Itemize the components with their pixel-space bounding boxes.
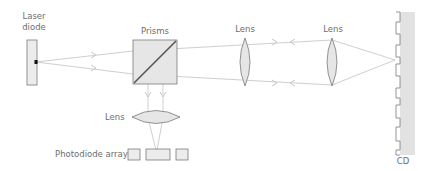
cd-label: CD: [397, 156, 409, 167]
lens-2-label: Lens: [323, 24, 343, 35]
laser-diode: [27, 40, 38, 85]
laser-diode-label: Laser diode: [22, 11, 46, 33]
prisms-label: Prisms: [141, 26, 169, 37]
laser-label-line2: diode: [22, 22, 46, 33]
photodiode-array: [128, 149, 188, 160]
prism-beam-splitter: [133, 40, 177, 84]
cd-disc: [396, 12, 415, 155]
diagram-canvas: [0, 0, 432, 171]
lens-3-label: Lens: [105, 112, 125, 123]
photodiode-label: Photodiode array: [55, 149, 128, 160]
cd-pickup-diagram: Laser diode Prisms Lens Lens Lens Photod…: [0, 0, 432, 171]
laser-label-line1: Laser: [22, 11, 46, 22]
emitter-icon: [35, 60, 38, 64]
light-beams: [36, 40, 395, 150]
lens-2: [327, 38, 337, 86]
lens-1-label: Lens: [235, 24, 255, 35]
lens-3: [132, 111, 180, 124]
